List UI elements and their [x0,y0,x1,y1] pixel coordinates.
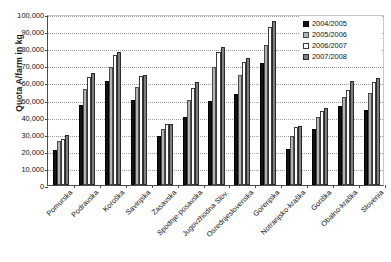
bar-group [53,16,69,185]
bar [91,73,95,185]
legend-label: 2006/2007 [312,41,347,50]
x-axis-tick-label: Savinjska [123,188,152,217]
bar-group [157,16,173,185]
legend-label: 2007/2008 [312,52,347,61]
y-axis-tick-label: 80,000 [8,45,44,54]
y-axis-tick-label: 90,000 [8,28,44,37]
bar [272,21,276,185]
y-axis-tick-mark [45,50,48,51]
bar-group [208,16,224,185]
x-axis-tick-labels: PomurskaPodravskaKoroškaSavinjskaZasavsk… [47,188,384,262]
y-axis-tick-label: 70,000 [8,62,44,71]
x-axis-tick-label: Goriška [309,188,333,212]
y-axis-tick-mark [45,16,48,17]
y-axis-tick-label: 50,000 [8,96,44,105]
legend-item: 2007/2008 [303,51,380,62]
bar-group [131,16,147,185]
y-axis-tick-mark [45,119,48,120]
bar [221,47,225,186]
y-axis-tick-label: 60,000 [8,79,44,88]
y-axis-tick-mark [45,136,48,137]
bar-group [79,16,95,185]
x-axis-tick-label: Osrednjeslovenska [205,188,256,239]
bar [324,108,328,185]
bar [350,81,354,185]
legend: 2004/20052005/20062006/20072007/2008 [300,16,382,64]
legend-swatch-icon [303,21,309,27]
y-axis-tick-label: 10,000 [8,164,44,173]
bar [169,124,173,185]
legend-swatch-icon [303,54,309,60]
x-axis-tick-label: Podravska [69,188,100,219]
bar [246,58,250,185]
bar [298,126,302,185]
y-axis-tick-mark [45,67,48,68]
legend-label: 2005/2006 [312,30,347,39]
y-axis-tick-mark [45,33,48,34]
legend-swatch-icon [303,32,309,38]
x-axis-tick-label: Spodnje-posavska [155,188,204,237]
y-axis-tick-label: 30,000 [8,130,44,139]
bar-group [234,16,250,185]
bar [376,78,380,185]
y-axis-tick-label: 40,000 [8,113,44,122]
y-axis-tick-mark [45,170,48,171]
x-axis-tick-label: Slovenia [359,188,385,214]
y-axis-tick-mark [45,102,48,103]
y-axis-tick-label: 20,000 [8,147,44,156]
y-axis-tick-labels: 100,00090,00080,00070,00060,00050,00040,… [8,15,44,186]
bar-group [105,16,121,185]
y-axis-tick-label: 0 [8,182,44,191]
legend-swatch-icon [303,43,309,49]
y-axis-tick-label: 100,000 [8,11,44,20]
y-axis-tick-mark [45,84,48,85]
bar [195,82,199,185]
legend-label: 2004/2005 [312,19,347,28]
legend-item: 2006/2007 [303,40,380,51]
bar [143,75,147,185]
legend-item: 2004/2005 [303,18,380,29]
x-axis-tick-mark [385,185,386,188]
bar [65,135,69,185]
bar-chart: Quota A/farm in kg 100,00090,00080,00070… [0,0,391,262]
legend-item: 2005/2006 [303,29,380,40]
bar-group [183,16,199,185]
y-axis-tick-mark [45,153,48,154]
bar-group [260,16,276,185]
bar [117,52,121,185]
